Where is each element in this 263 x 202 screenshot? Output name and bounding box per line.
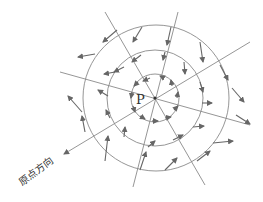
center-label-p: P bbox=[136, 92, 145, 107]
origin-direction-label: 原点方向 bbox=[16, 154, 55, 187]
center-point bbox=[153, 96, 156, 99]
field-arrows bbox=[68, 27, 250, 170]
vector-field-diagram: P 原点方向 bbox=[0, 0, 263, 202]
origin-direction-line bbox=[64, 42, 250, 154]
